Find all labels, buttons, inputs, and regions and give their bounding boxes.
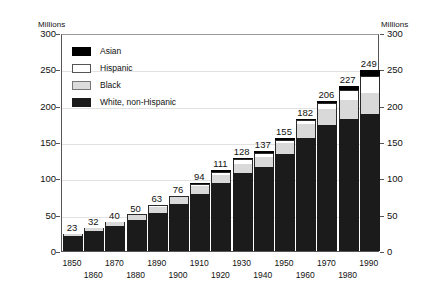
y-tick-mark bbox=[380, 34, 384, 35]
bar-segment-white-non-hispanic bbox=[339, 119, 359, 251]
bar-segment-black bbox=[360, 93, 380, 115]
y-tick-label-right-300: 300 bbox=[387, 28, 417, 39]
legend-item-black[interactable]: Black bbox=[72, 78, 176, 92]
bar-total-label-1970: 206 bbox=[309, 89, 343, 100]
y-tick-label-right-200: 200 bbox=[387, 101, 417, 112]
bar-segment-white-non-hispanic bbox=[360, 114, 380, 251]
y-tick-label-right-150: 150 bbox=[387, 137, 417, 148]
bar-total-label-1940: 137 bbox=[246, 139, 280, 150]
y-tick-label-left-150: 150 bbox=[26, 137, 56, 148]
legend-item-hispanic[interactable]: Hispanic bbox=[72, 61, 176, 75]
bar-segment-white-non-hispanic bbox=[105, 226, 125, 251]
bar-total-label-1920: 111 bbox=[203, 158, 237, 169]
y-tick-mark bbox=[56, 179, 60, 180]
legend: AsianHispanicBlackWhite, non-Hispanic bbox=[72, 44, 176, 112]
bar-segment-white-non-hispanic bbox=[63, 236, 83, 251]
x-tick-label-1980: 1980 bbox=[328, 270, 368, 280]
legend-label: Black bbox=[100, 80, 121, 90]
y-tick-mark bbox=[56, 70, 60, 71]
white-non-hispanic-swatch bbox=[72, 98, 91, 107]
hispanic-swatch bbox=[72, 64, 91, 73]
bar-segment-white-non-hispanic bbox=[317, 125, 337, 251]
black-swatch bbox=[72, 81, 91, 90]
population-stacked-bar-chart: Millions Millions 050100150200250300 050… bbox=[0, 0, 431, 295]
y-tick-label-left-250: 250 bbox=[26, 64, 56, 75]
legend-item-white-non-hispanic[interactable]: White, non-Hispanic bbox=[72, 95, 176, 109]
bar-1960[interactable] bbox=[296, 119, 316, 251]
bar-total-label-1980: 227 bbox=[331, 74, 365, 85]
bar-total-label-1990: 249 bbox=[352, 58, 386, 69]
bar-total-label-1900: 76 bbox=[161, 184, 195, 195]
y-tick-mark bbox=[56, 143, 60, 144]
y-tick-mark bbox=[380, 179, 384, 180]
bar-segment-white-non-hispanic bbox=[296, 138, 316, 251]
bar-1970[interactable] bbox=[317, 101, 337, 251]
x-tick-label-1960: 1960 bbox=[285, 270, 325, 280]
y-tick-label-right-100: 100 bbox=[387, 173, 417, 184]
x-tick-label-1870: 1870 bbox=[94, 258, 134, 268]
y-tick-mark bbox=[380, 107, 384, 108]
x-tick-label-1890: 1890 bbox=[137, 258, 177, 268]
bar-1950[interactable] bbox=[275, 138, 295, 251]
bar-segment-white-non-hispanic bbox=[211, 183, 231, 251]
bar-1980[interactable] bbox=[339, 86, 359, 251]
bar-segment-white-non-hispanic bbox=[127, 220, 147, 251]
bar-total-label-1910: 94 bbox=[182, 171, 216, 182]
x-tick-label-1990: 1990 bbox=[349, 258, 389, 268]
x-tick-label-1880: 1880 bbox=[116, 270, 156, 280]
y-tick-label-right-50: 50 bbox=[387, 210, 417, 221]
y-tick-mark bbox=[56, 107, 60, 108]
y-tick-label-right-0: 0 bbox=[387, 246, 417, 257]
y-tick-mark bbox=[56, 216, 60, 217]
bar-total-label-1960: 182 bbox=[288, 107, 322, 118]
bar-total-label-1880: 50 bbox=[119, 203, 153, 214]
bar-segment-white-non-hispanic bbox=[190, 194, 210, 251]
bar-1920[interactable] bbox=[211, 170, 231, 251]
x-tick-label-1970: 1970 bbox=[306, 258, 346, 268]
x-tick-label-1900: 1900 bbox=[158, 270, 198, 280]
bar-1850[interactable] bbox=[63, 234, 83, 251]
legend-label: White, non-Hispanic bbox=[100, 97, 176, 107]
x-tick-label-1860: 1860 bbox=[73, 270, 113, 280]
bar-segment-white-non-hispanic bbox=[148, 213, 168, 252]
y-tick-label-right-250: 250 bbox=[387, 64, 417, 75]
bar-total-label-1890: 63 bbox=[140, 193, 174, 204]
y-tick-mark bbox=[380, 143, 384, 144]
legend-item-asian[interactable]: Asian bbox=[72, 44, 176, 58]
bar-segment-white-non-hispanic bbox=[84, 231, 104, 251]
x-tick-label-1950: 1950 bbox=[264, 258, 304, 268]
y-tick-mark bbox=[380, 216, 384, 217]
y-tick-mark bbox=[380, 70, 384, 71]
y-tick-mark bbox=[56, 252, 60, 253]
bar-segment-black bbox=[339, 100, 359, 120]
bar-1990[interactable] bbox=[360, 70, 380, 251]
x-tick-label-1920: 1920 bbox=[200, 270, 240, 280]
y-tick-mark bbox=[56, 34, 60, 35]
bar-1930[interactable] bbox=[233, 158, 253, 251]
y-tick-label-left-50: 50 bbox=[26, 210, 56, 221]
y-tick-label-left-200: 200 bbox=[26, 101, 56, 112]
x-tick-label-1910: 1910 bbox=[179, 258, 219, 268]
bar-1940[interactable] bbox=[254, 151, 274, 251]
legend-label: Asian bbox=[100, 46, 121, 56]
x-tick-label-1940: 1940 bbox=[243, 270, 283, 280]
bar-segment-white-non-hispanic bbox=[233, 173, 253, 251]
y-tick-label-left-0: 0 bbox=[26, 246, 56, 257]
bar-segment-white-non-hispanic bbox=[275, 154, 295, 251]
y-tick-label-left-300: 300 bbox=[26, 28, 56, 39]
bar-total-label-1950: 155 bbox=[267, 126, 301, 137]
asian-swatch bbox=[72, 47, 91, 56]
bar-segment-white-non-hispanic bbox=[169, 204, 189, 251]
y-tick-label-left-100: 100 bbox=[26, 173, 56, 184]
x-tick-label-1850: 1850 bbox=[52, 258, 92, 268]
bar-segment-black bbox=[254, 157, 274, 166]
x-tick-label-1930: 1930 bbox=[222, 258, 262, 268]
legend-label: Hispanic bbox=[100, 63, 133, 73]
bar-segment-white-non-hispanic bbox=[254, 167, 274, 251]
y-tick-mark bbox=[380, 252, 384, 253]
